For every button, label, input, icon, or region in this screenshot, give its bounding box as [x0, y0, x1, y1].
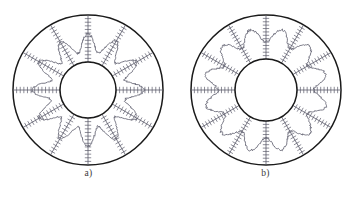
spoke-tick-mark: [28, 53, 31, 59]
spoke-tick-mark: [34, 118, 37, 124]
spoke-tick-mark: [68, 58, 74, 61]
spoke-tick-mark: [235, 104, 238, 110]
spoke-tick-mark: [236, 41, 242, 44]
spoke-tick-mark: [56, 105, 59, 111]
spoke-tick-mark: [323, 121, 326, 127]
spoke-tick-mark: [129, 62, 132, 68]
spoke-tick-mark: [47, 110, 50, 116]
spoke-tick-mark: [123, 66, 126, 72]
spoke-tick-mark: [297, 147, 303, 150]
spoke-tick-mark: [51, 30, 57, 33]
spoke-tick-mark: [116, 36, 122, 39]
spoke-tick-mark: [119, 30, 125, 33]
spoke-tick-mark: [114, 71, 117, 77]
polar-annulus-diagram-a: [0, 0, 177, 172]
spoke-tick-mark: [202, 123, 205, 129]
spoke-tick-mark: [292, 38, 298, 41]
spoke-tick-mark: [233, 35, 239, 38]
spoke-tick-mark: [326, 123, 329, 129]
spoke-tick-mark: [296, 32, 302, 35]
spoke-tick-mark: [62, 128, 68, 131]
spoke-tick-mark: [50, 150, 56, 153]
spoke-tick-mark: [126, 64, 129, 70]
spoke-tick-mark: [105, 122, 111, 125]
figure-panel-a: a): [0, 0, 177, 202]
spoke-tick-mark: [241, 50, 247, 53]
spoke-tick-mark: [120, 68, 123, 74]
spoke-tick-mark: [312, 115, 315, 121]
spoke-tick-mark: [238, 44, 244, 47]
spoke-tick-mark: [50, 108, 53, 114]
spoke-tick-mark: [294, 104, 297, 110]
spoke-tick-mark: [53, 107, 56, 113]
spoke-tick-mark: [114, 103, 117, 109]
spoke-tick-mark: [106, 52, 112, 55]
spoke-tick-mark: [56, 70, 59, 76]
spoke-tick-mark: [121, 27, 127, 30]
spoke-tick-mark: [64, 125, 70, 128]
spoke-tick-mark: [66, 122, 72, 125]
spoke-tick-mark: [123, 108, 126, 114]
spoke-tick-mark: [312, 60, 315, 66]
inner-circle: [60, 62, 116, 118]
spoke-tick-mark: [233, 142, 239, 145]
spoke-tick-mark: [117, 70, 120, 76]
spoke-tick-mark: [148, 123, 151, 129]
spoke-tick-mark: [280, 118, 286, 121]
spoke-tick-mark: [117, 33, 123, 36]
spoke-tick-mark: [101, 61, 107, 64]
spoke-tick-mark: [321, 55, 324, 61]
spoke-tick-mark: [55, 36, 61, 39]
spoke-tick-mark: [51, 147, 57, 150]
spoke-tick-mark: [53, 33, 59, 36]
spoke-tick-mark: [229, 29, 235, 32]
spoke-tick-mark: [303, 110, 306, 116]
spoke-tick-mark: [294, 70, 297, 76]
panel-caption-b: b): [177, 168, 354, 178]
spoke-tick-mark: [299, 26, 305, 29]
spoke-tick-mark: [31, 55, 34, 61]
spoke-tick-mark: [231, 32, 237, 35]
spoke-tick-mark: [126, 110, 129, 116]
spoke-tick-mark: [25, 123, 28, 129]
spoke-tick-mark: [300, 67, 303, 73]
spoke-tick-mark: [220, 62, 223, 68]
spoke-tick-mark: [117, 105, 120, 111]
spoke-tick-mark: [297, 29, 303, 32]
spoke-tick-mark: [282, 121, 288, 124]
spoke-tick-mark: [289, 133, 295, 136]
spoke-tick-mark: [47, 64, 50, 70]
spoke-tick-mark: [202, 51, 205, 57]
spoke-tick-mark: [243, 53, 249, 56]
spoke-tick-mark: [217, 60, 220, 66]
spoke-tick-mark: [229, 67, 232, 73]
spoke-tick-mark: [227, 26, 233, 29]
spoke-tick-mark: [232, 106, 235, 112]
spoke-tick-mark: [303, 65, 306, 71]
spoke-tick-mark: [31, 119, 34, 125]
spoke-tick-mark: [69, 61, 75, 64]
spoke-tick-mark: [318, 118, 321, 124]
spoke-tick-mark: [66, 55, 72, 58]
spoke-tick-mark: [208, 120, 211, 126]
spoke-tick-mark: [294, 35, 300, 38]
spoke-tick-mark: [121, 150, 127, 153]
spoke-tick-mark: [69, 116, 75, 119]
spoke-tick-mark: [59, 103, 62, 109]
spoke-tick-mark: [64, 52, 70, 55]
spoke-tick-mark: [105, 55, 111, 58]
spoke-tick-mark: [243, 124, 249, 127]
spoke-tick-mark: [296, 145, 302, 148]
spoke-tick-mark: [148, 52, 151, 58]
spoke-tick-mark: [246, 118, 252, 121]
spoke-tick-mark: [34, 57, 37, 63]
spoke-tick-mark: [205, 121, 208, 127]
spoke-tick-mark: [145, 53, 148, 59]
spoke-tick-mark: [229, 108, 232, 114]
spoke-tick-mark: [101, 116, 107, 119]
spoke-tick-mark: [120, 107, 123, 113]
spoke-tick-mark: [25, 52, 28, 58]
spoke-tick-mark: [53, 68, 56, 74]
spoke-tick-mark: [142, 119, 145, 125]
spoke-tick-mark: [28, 121, 31, 127]
